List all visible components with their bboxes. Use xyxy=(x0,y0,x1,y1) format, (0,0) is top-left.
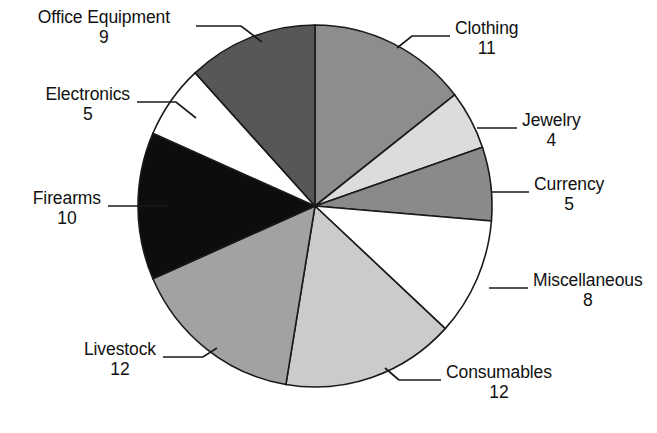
pie-label-livestock-name: Livestock xyxy=(84,340,156,360)
pie-label-currency: Currency 5 xyxy=(534,175,604,214)
pie-label-consumables-name: Consumables xyxy=(446,363,552,383)
pie-label-clothing: Clothing 11 xyxy=(455,19,518,58)
pie-label-consumables-value: 12 xyxy=(446,383,552,403)
leader-line-clothing xyxy=(397,36,450,48)
pie-label-electronics-name: Electronics xyxy=(46,85,131,105)
pie-label-currency-name: Currency xyxy=(534,175,604,195)
pie-label-jewelry-name: Jewelry xyxy=(522,111,581,131)
pie-label-electronics-value: 5 xyxy=(46,105,131,125)
pie-label-livestock: Livestock 12 xyxy=(84,340,156,379)
pie-slices-group xyxy=(138,25,492,387)
pie-label-jewelry-value: 4 xyxy=(522,131,581,151)
pie-label-clothing-name: Clothing xyxy=(455,19,518,39)
pie-label-electronics: Electronics 5 xyxy=(46,85,131,124)
pie-label-firearms: Firearms 10 xyxy=(33,189,101,228)
pie-chart: Office Equipment 9 Electronics 5 Firearm… xyxy=(0,0,657,433)
pie-label-office-equipment-name: Office Equipment xyxy=(38,8,170,28)
pie-label-office-equipment: Office Equipment 9 xyxy=(38,8,170,47)
pie-label-miscellaneous: Miscellaneous 8 xyxy=(533,271,643,310)
pie-label-miscellaneous-value: 8 xyxy=(533,291,643,311)
pie-label-miscellaneous-name: Miscellaneous xyxy=(533,271,643,291)
pie-label-currency-value: 5 xyxy=(534,195,604,215)
pie-label-firearms-value: 10 xyxy=(33,209,101,229)
pie-label-clothing-value: 11 xyxy=(455,39,518,59)
pie-label-jewelry: Jewelry 4 xyxy=(522,111,581,150)
pie-label-livestock-value: 12 xyxy=(84,360,156,380)
pie-label-office-equipment-value: 9 xyxy=(38,28,170,48)
pie-label-firearms-name: Firearms xyxy=(33,189,101,209)
pie-label-consumables: Consumables 12 xyxy=(446,363,552,402)
